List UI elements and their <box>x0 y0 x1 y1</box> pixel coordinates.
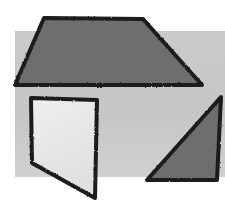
figure-root: ...... .. ... ..... ... ..... .. .. ... … <box>0 0 225 218</box>
figure-canvas <box>0 0 225 218</box>
